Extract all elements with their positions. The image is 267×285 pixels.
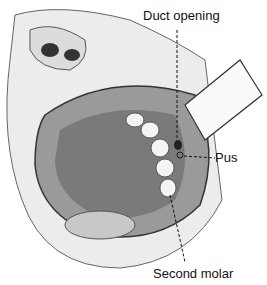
second-molar-label: Second molar [153,266,233,281]
duct-opening-label: Duct opening [143,8,220,23]
mouth-illustration [0,0,267,285]
pus-label: Pus [215,150,237,165]
